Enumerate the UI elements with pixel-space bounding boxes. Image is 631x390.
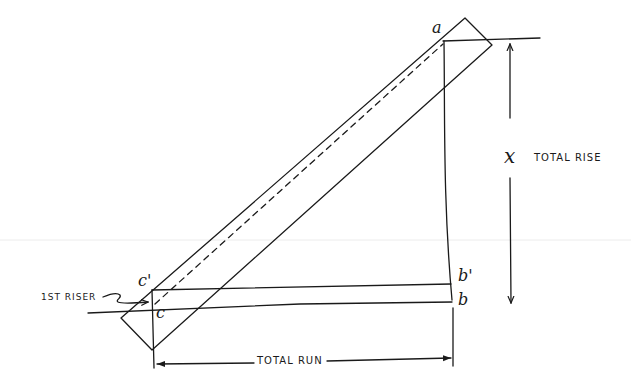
first-riser-pointer-arrow xyxy=(103,294,148,304)
dashed-diagonal-c-to-a xyxy=(155,44,443,304)
total-run-arrow-right xyxy=(327,358,451,361)
first-riser-label: 1ST RISER xyxy=(41,292,96,302)
stringer-board xyxy=(121,18,492,350)
point-label-c: c xyxy=(156,303,165,322)
point-label-b-prime: b' xyxy=(458,266,473,285)
point-label-c-prime: c' xyxy=(138,271,151,290)
stair-layout-diagram xyxy=(0,0,631,390)
total-rise-label: TOTAL RISE xyxy=(534,152,601,163)
total-rise-arrow-lower xyxy=(510,178,511,303)
ground-line-c-to-b xyxy=(88,302,452,313)
point-label-b: b xyxy=(458,290,468,309)
total-rise-variable-x: x xyxy=(504,144,515,168)
total-run-arrow-left xyxy=(157,363,254,364)
point-label-a: a xyxy=(432,18,442,37)
line-c-prime-to-b-prime xyxy=(152,284,451,290)
total-run-label: TOTAL RUN xyxy=(257,355,323,366)
first-riser-line xyxy=(152,290,154,368)
top-level-line xyxy=(443,38,540,41)
vertical-line-a-b xyxy=(444,41,452,300)
